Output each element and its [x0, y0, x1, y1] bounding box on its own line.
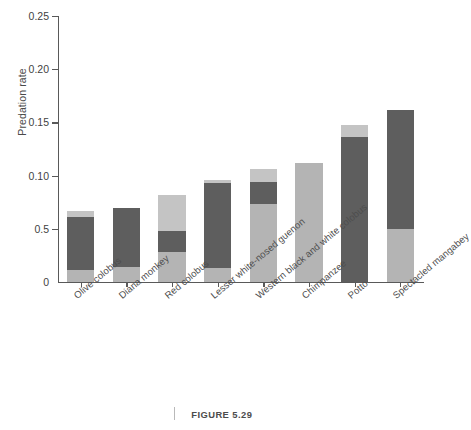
bar-segment — [67, 211, 94, 217]
bar-segment — [204, 180, 231, 183]
bar-segment — [204, 183, 231, 268]
y-tick-label: 0.20 — [29, 63, 49, 75]
caption-label: FIGURE 5.29 — [191, 409, 252, 420]
bar-segment — [158, 231, 185, 252]
bar-3[interactable] — [204, 16, 231, 282]
y-tick-label: 0.10 — [29, 170, 49, 182]
caption-rule-icon — [174, 407, 175, 420]
bar-segment — [341, 125, 368, 138]
bar-2[interactable] — [158, 16, 185, 282]
figure-caption: FIGURE 5.29 — [0, 404, 426, 422]
x-axis-line — [58, 282, 424, 283]
plot-area: 0.250.200.150.100.50 — [58, 16, 423, 282]
y-tick-mark — [52, 176, 58, 177]
y-tick-mark — [52, 122, 58, 123]
bar-segment — [387, 110, 414, 229]
y-tick-mark — [52, 69, 58, 70]
bar-segment — [67, 217, 94, 270]
bar-1[interactable] — [113, 16, 140, 282]
y-tick-label: 0 — [43, 276, 49, 288]
y-tick-label: 0.25 — [29, 10, 49, 22]
bar-segment — [250, 182, 277, 204]
bar-segment — [387, 229, 414, 282]
y-tick-label: 0.5 — [34, 223, 49, 235]
bar-7[interactable] — [387, 16, 414, 282]
bar-6[interactable] — [341, 16, 368, 282]
bar-segment — [158, 195, 185, 231]
y-axis-title: Predation rate — [16, 42, 28, 162]
bar-0[interactable] — [67, 16, 94, 282]
bar-segment — [250, 169, 277, 182]
y-tick-mark — [52, 229, 58, 230]
y-tick-label: 0.15 — [29, 116, 49, 128]
y-tick-mark — [52, 16, 58, 17]
